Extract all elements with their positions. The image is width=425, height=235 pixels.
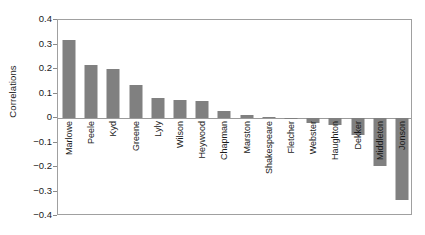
bar-group: Shakespeare	[258, 20, 280, 214]
y-axis-tick-labels: 0.40.30.20.10−0.1−0.2−0.3−0.4	[18, 19, 52, 215]
x-axis-category-label: Jonson	[397, 121, 407, 150]
y-axis-tick-mark	[53, 93, 57, 94]
y-axis-tick-mark	[53, 117, 57, 118]
bar-group: Fletcher	[280, 20, 302, 214]
x-axis-category-label: Kyd	[108, 121, 118, 137]
y-axis-tick-label: 0.2	[18, 63, 52, 73]
bar	[174, 100, 187, 118]
x-axis-category-label: Dekker	[353, 121, 363, 150]
y-axis-tick-mark	[53, 19, 57, 20]
y-axis-tick-mark	[53, 215, 57, 216]
bar	[196, 101, 209, 118]
bar-group: Jonson	[391, 20, 413, 214]
bar	[85, 65, 98, 118]
x-axis-category-label: Shakespeare	[264, 121, 274, 174]
y-axis-tick-label: 0.4	[18, 14, 52, 24]
bar	[218, 111, 231, 118]
bar-group: Lyly	[147, 20, 169, 214]
x-axis-category-label: Peele	[86, 121, 96, 144]
bar-group: Peele	[80, 20, 102, 214]
bar-group: Haughton	[324, 20, 346, 214]
bar-group: Marston	[236, 20, 258, 214]
x-axis-category-label: Marlowe	[64, 121, 74, 155]
bar	[240, 115, 253, 118]
x-axis-category-label: Wilson	[175, 121, 185, 148]
y-axis-tick-label: −0.2	[18, 161, 52, 171]
bar	[151, 98, 164, 118]
x-axis-category-label: Chapman	[219, 121, 229, 160]
bar	[63, 40, 76, 118]
y-axis-tick-label: −0.1	[18, 137, 52, 147]
y-axis-tick-mark	[53, 142, 57, 143]
bar	[107, 69, 120, 118]
y-axis-tick-label: −0.4	[18, 210, 52, 220]
x-axis-category-label: Fletcher	[286, 121, 296, 154]
correlations-bar-chart: Correlations 0.40.30.20.10−0.1−0.2−0.3−0…	[0, 0, 425, 235]
bar-group: Webster	[302, 20, 324, 214]
bar-group: Greene	[125, 20, 147, 214]
bar-group: Wilson	[169, 20, 191, 214]
y-axis-tick-label: 0.3	[18, 39, 52, 49]
y-axis-tick-mark	[53, 166, 57, 167]
x-axis-category-label: Greene	[131, 121, 141, 151]
bar	[284, 118, 297, 119]
plot-area: MarlowePeeleKydGreeneLylyWilsonHeywoodCh…	[57, 19, 412, 215]
bar-group: Middleton	[369, 20, 391, 214]
bar-group: Marlowe	[58, 20, 80, 214]
x-axis-category-label: Heywood	[197, 121, 207, 159]
x-axis-category-label: Middleton	[375, 121, 385, 160]
y-axis-tick-mark	[53, 191, 57, 192]
y-axis-tick-label: 0.1	[18, 88, 52, 98]
x-axis-category-label: Webster	[308, 121, 318, 154]
bar	[262, 117, 275, 118]
y-axis-tick-mark	[53, 68, 57, 69]
x-axis-category-label: Lyly	[153, 121, 163, 137]
x-axis-category-label: Haughton	[330, 121, 340, 160]
y-axis-title: Correlations	[7, 56, 18, 128]
bar-group: Chapman	[213, 20, 235, 214]
y-axis-tick-mark	[53, 44, 57, 45]
y-axis-tick-label: 0	[18, 112, 52, 122]
y-axis-tick-label: −0.3	[18, 186, 52, 196]
bar-group: Heywood	[191, 20, 213, 214]
bar	[129, 85, 142, 118]
x-axis-category-label: Marston	[242, 121, 252, 154]
bar-group: Dekker	[346, 20, 368, 214]
plot-inner: MarlowePeeleKydGreeneLylyWilsonHeywoodCh…	[58, 20, 411, 214]
bar-group: Kyd	[102, 20, 124, 214]
